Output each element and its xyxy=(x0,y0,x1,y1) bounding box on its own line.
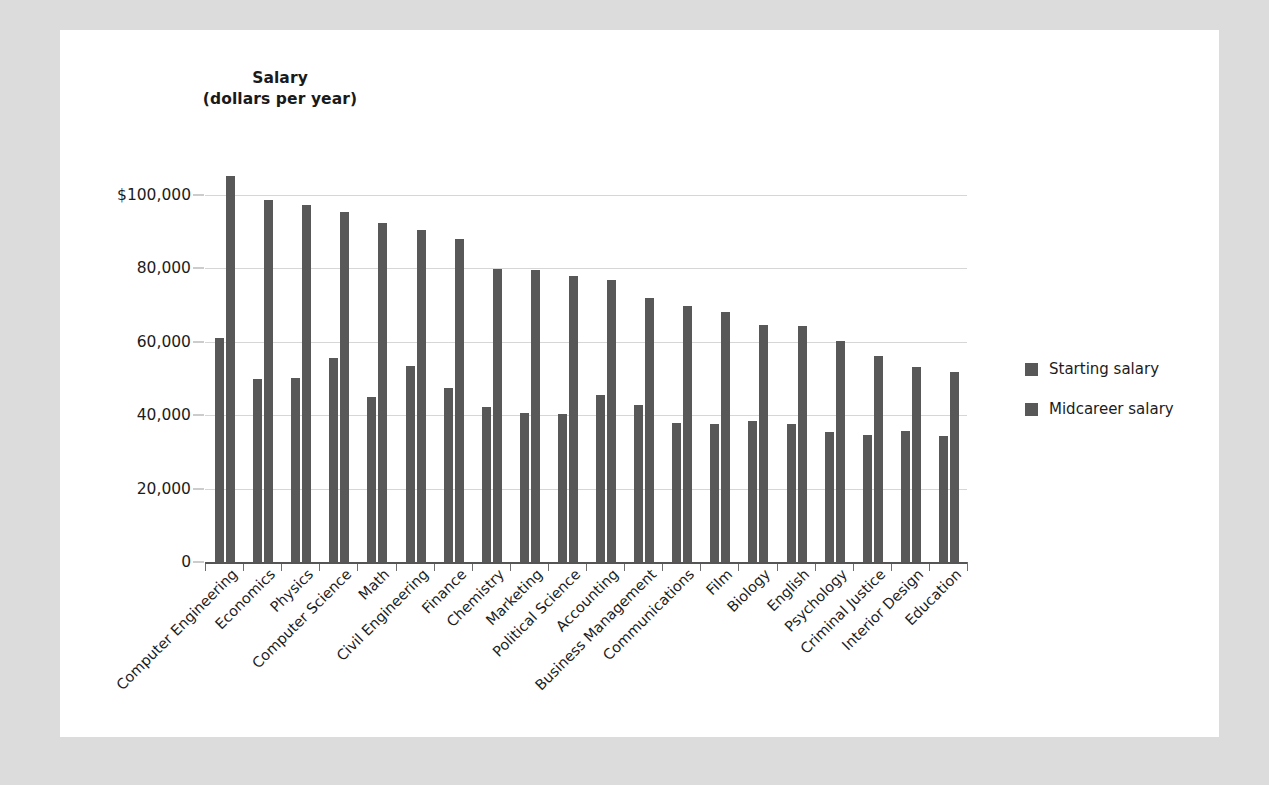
bar-midcareer-salary xyxy=(493,269,502,562)
bar-starting-salary xyxy=(710,424,719,562)
x-axis-line xyxy=(205,562,967,564)
chart-panel: Salary (dollars per year) $100,00080,000… xyxy=(60,30,1219,737)
bar-group xyxy=(825,158,845,562)
bar-group xyxy=(634,158,654,562)
legend-swatch-icon xyxy=(1025,403,1038,416)
bar-midcareer-salary xyxy=(874,356,883,562)
chart-title: Salary (dollars per year) xyxy=(165,68,395,110)
legend-item[interactable]: Starting salary xyxy=(1025,360,1215,378)
bar-starting-salary xyxy=(863,435,872,562)
bar-group xyxy=(596,158,616,562)
legend-swatch-icon xyxy=(1025,363,1038,376)
bar-group xyxy=(863,158,883,562)
chart-page: Salary (dollars per year) $100,00080,000… xyxy=(0,0,1269,785)
bar-midcareer-salary xyxy=(759,325,768,562)
bar-midcareer-salary xyxy=(569,276,578,562)
bar-group xyxy=(253,158,273,562)
bar-starting-salary xyxy=(253,379,262,562)
bar-group xyxy=(672,158,692,562)
y-tick-label: 0 xyxy=(51,553,191,571)
bar-midcareer-salary xyxy=(302,205,311,562)
bar-group xyxy=(329,158,349,562)
y-tick-mark xyxy=(193,488,204,489)
plot-area: $100,00080,00060,00040,00020,0000 Comput… xyxy=(205,158,967,562)
bar-starting-salary xyxy=(406,366,415,562)
bar-group xyxy=(520,158,540,562)
bar-midcareer-salary xyxy=(912,367,921,562)
y-tick-mark xyxy=(193,562,204,563)
bar-midcareer-salary xyxy=(798,326,807,562)
chart-title-line1: Salary xyxy=(165,68,395,89)
bar-starting-salary xyxy=(482,407,491,562)
chart-title-line2: (dollars per year) xyxy=(165,89,395,110)
bar-midcareer-salary xyxy=(378,223,387,562)
bar-starting-salary xyxy=(291,378,300,562)
bar-midcareer-salary xyxy=(455,239,464,562)
y-tick-label: $100,000 xyxy=(51,186,191,204)
bar-starting-salary xyxy=(367,397,376,562)
bar-group xyxy=(710,158,730,562)
bar-starting-salary xyxy=(558,414,567,562)
bar-starting-salary xyxy=(215,338,224,562)
bar-starting-salary xyxy=(329,358,338,562)
y-tick-label: 80,000 xyxy=(51,259,191,277)
bar-midcareer-salary xyxy=(417,230,426,562)
y-tick-mark xyxy=(193,194,204,195)
gridline xyxy=(205,268,967,269)
bar-starting-salary xyxy=(520,413,529,562)
bar-midcareer-salary xyxy=(340,212,349,562)
y-tick-mark xyxy=(193,415,204,416)
gridline xyxy=(205,342,967,343)
bar-starting-salary xyxy=(634,405,643,562)
bar-starting-salary xyxy=(939,436,948,562)
bar-group xyxy=(939,158,959,562)
legend-label: Starting salary xyxy=(1049,360,1159,378)
bar-midcareer-salary xyxy=(607,280,616,562)
bar-midcareer-salary xyxy=(645,298,654,562)
bar-midcareer-salary xyxy=(721,312,730,562)
bar-starting-salary xyxy=(901,431,910,562)
bar-group xyxy=(444,158,464,562)
bar-starting-salary xyxy=(672,423,681,562)
bar-midcareer-salary xyxy=(950,372,959,562)
y-tick-label: 20,000 xyxy=(51,480,191,498)
bar-starting-salary xyxy=(444,388,453,562)
bar-starting-salary xyxy=(596,395,605,562)
gridline xyxy=(205,489,967,490)
y-tick-label: 40,000 xyxy=(51,406,191,424)
bar-group xyxy=(901,158,921,562)
bar-midcareer-salary xyxy=(836,341,845,562)
bar-midcareer-salary xyxy=(531,270,540,562)
bar-starting-salary xyxy=(825,432,834,562)
bar-group xyxy=(291,158,311,562)
bar-midcareer-salary xyxy=(683,306,692,562)
bar-midcareer-salary xyxy=(264,200,273,562)
bar-group xyxy=(406,158,426,562)
legend-item[interactable]: Midcareer salary xyxy=(1025,400,1215,418)
bar-group xyxy=(482,158,502,562)
bar-group xyxy=(787,158,807,562)
bar-midcareer-salary xyxy=(226,176,235,562)
bar-group xyxy=(215,158,235,562)
y-tick-mark xyxy=(193,268,204,269)
y-tick-label: 60,000 xyxy=(51,333,191,351)
bar-group xyxy=(367,158,387,562)
x-tick-mark xyxy=(967,562,968,571)
gridline xyxy=(205,415,967,416)
legend-label: Midcareer salary xyxy=(1049,400,1174,418)
bar-starting-salary xyxy=(787,424,796,562)
bar-starting-salary xyxy=(748,421,757,562)
chart-legend: Starting salaryMidcareer salary xyxy=(1025,360,1215,440)
bar-group xyxy=(748,158,768,562)
gridline xyxy=(205,195,967,196)
y-tick-mark xyxy=(193,341,204,342)
bar-group xyxy=(558,158,578,562)
